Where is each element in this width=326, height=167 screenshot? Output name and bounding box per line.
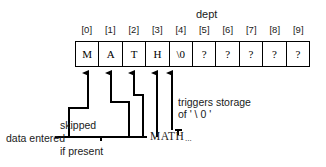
skipped-label: skipped [60,120,96,131]
arrow-to-cell-2 [134,73,143,137]
trigger-line-2: of ' \ 0 ' [178,108,251,120]
trigger-annotation: triggers storage of ' \ 0 ' [178,96,251,120]
array-diagram: dept [0] [1] [2] [3] [4] [5] [6] [7] [8]… [0,0,326,167]
typed-input-label: MATH [150,131,184,143]
arrow-to-cell-1 [111,73,129,137]
if-present-label: if present [60,146,103,157]
trigger-line-1: triggers storage [178,96,251,108]
ellipsis-label: ... [185,134,192,143]
data-entered-label: data entered [6,133,65,144]
